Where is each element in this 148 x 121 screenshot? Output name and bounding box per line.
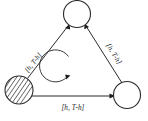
edge-bottom [31, 94, 115, 99]
cycle-arrow-head [65, 75, 70, 80]
cycle-arrow-arc [40, 50, 69, 82]
triangle-cycle-diagram: [h, T-h] [h, T-h] [h, T-h] [0, 0, 148, 121]
node-top-circle [64, 1, 91, 28]
node-bottom-right [114, 82, 141, 109]
node-bottom-right-circle [114, 82, 141, 109]
cycle-arrow [40, 50, 71, 82]
diagram-canvas: [h, T-h] [h, T-h] [h, T-h] [0, 0, 148, 121]
node-top [64, 1, 91, 28]
edge-bottom-label: [h, T-h] [61, 104, 84, 112]
edge-right-label: [h, T-h] [104, 42, 123, 66]
